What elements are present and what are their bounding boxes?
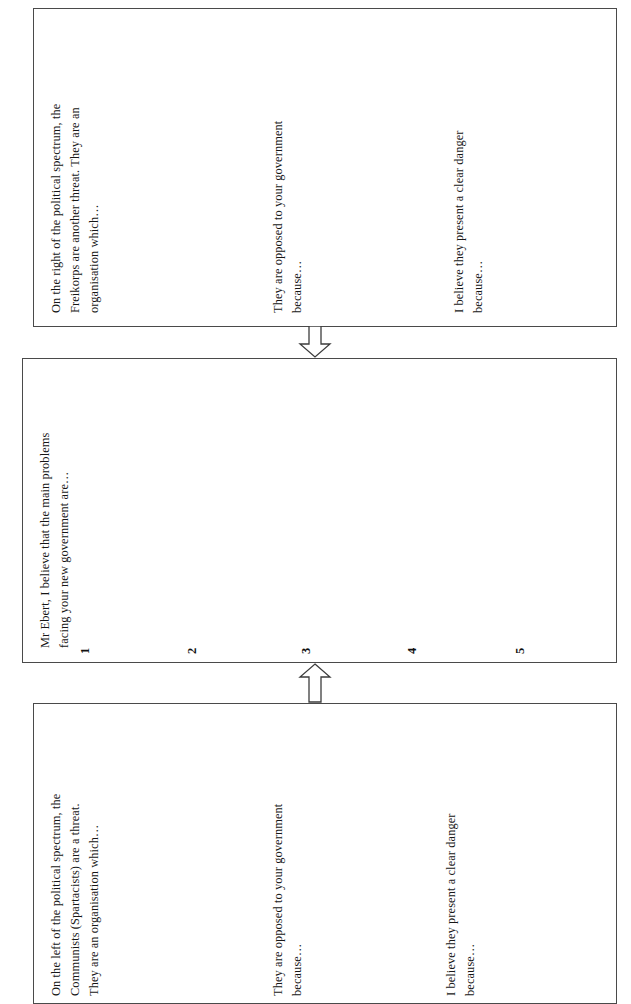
right-wing-opposition-prompt: They are opposed to your government beca… [269, 121, 307, 313]
main-problems-box [22, 358, 617, 663]
problem-number-5: 5 [513, 648, 528, 654]
right-wing-danger-line-1: I believe they present a clear danger [450, 130, 469, 313]
arrow-left-box-to-centre-icon [298, 663, 332, 703]
left-wing-opposition-prompt: They are opposed to your government beca… [269, 804, 307, 996]
left-wing-intro-line-2: Communists (Spartacists) are a threat. [66, 794, 85, 996]
left-wing-danger-line-2: because… [461, 813, 480, 996]
left-wing-intro-line-1: On the left of the political spectrum, t… [47, 794, 66, 996]
arrow-right-box-to-centre-icon [298, 326, 332, 358]
left-wing-threat-box [33, 703, 617, 1004]
right-wing-intro-paragraph: On the right of the political spectrum, … [47, 104, 104, 313]
problem-number-1: 1 [78, 648, 93, 654]
right-wing-opposition-line-1: They are opposed to your government [269, 121, 288, 313]
main-problems-heading-line-1: Mr Ebert, I believe that the main proble… [36, 433, 55, 648]
left-wing-danger-line-1: I believe they present a clear danger [442, 813, 461, 996]
right-wing-danger-prompt: I believe they present a clear danger be… [450, 130, 488, 313]
problem-number-4: 4 [405, 648, 420, 654]
right-wing-danger-line-2: because… [469, 130, 488, 313]
left-wing-intro-paragraph: On the left of the political spectrum, t… [47, 794, 104, 996]
worksheet-page: On the right of the political spectrum, … [0, 0, 631, 1004]
left-wing-opposition-line-2: because… [288, 804, 307, 996]
left-wing-opposition-line-1: They are opposed to your government [269, 804, 288, 996]
right-wing-intro-line-3: organisation which… [85, 104, 104, 313]
left-wing-danger-prompt: I believe they present a clear danger be… [442, 813, 480, 996]
main-problems-heading-line-2: facing your new government are… [55, 433, 74, 648]
right-wing-intro-line-2: Freikorps are another threat. They are a… [66, 104, 85, 313]
problem-number-2: 2 [185, 648, 200, 654]
main-problems-heading: Mr Ebert, I believe that the main proble… [36, 433, 74, 648]
left-wing-intro-line-3: They are an organisation which… [85, 794, 104, 996]
right-wing-threat-box [33, 8, 617, 327]
problem-number-3: 3 [299, 648, 314, 654]
right-wing-opposition-line-2: because… [288, 121, 307, 313]
right-wing-intro-line-1: On the right of the political spectrum, … [47, 104, 66, 313]
